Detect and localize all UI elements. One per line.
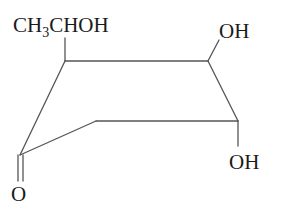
bond-lower-left	[20, 121, 96, 155]
bond-right-upper	[208, 61, 238, 121]
ring-bonds	[20, 61, 238, 155]
bond-to-top-oh	[208, 40, 219, 61]
label-ch3choh: CH3CHOH	[13, 13, 109, 40]
label-bottom-oh: OH	[229, 150, 259, 174]
label-carbonyl-oxygen: O	[11, 182, 26, 206]
chemical-structure-diagram: CH3CHOH OH OH O	[0, 0, 282, 212]
substituent-bonds	[18, 38, 238, 181]
bond-left	[20, 61, 65, 155]
label-top-oh: OH	[219, 19, 249, 43]
